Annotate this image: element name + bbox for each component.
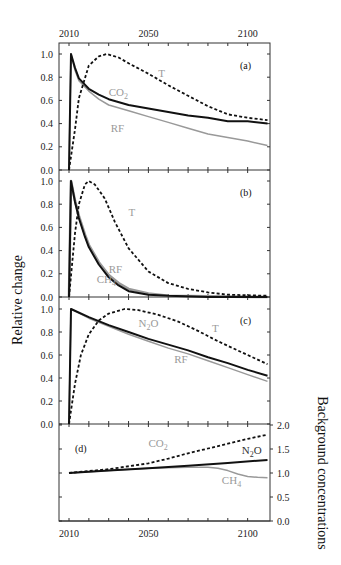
- panel-label-a: (a): [240, 60, 251, 72]
- series-layer: [69, 54, 268, 478]
- series-label-c: T: [212, 322, 219, 334]
- y-tick-label-right: 2.0: [277, 420, 290, 431]
- x-tick-label-bottom: 2100: [238, 528, 258, 539]
- y-tick-label: 0.4: [41, 118, 54, 129]
- x-tick-label-top: 2010: [59, 28, 79, 39]
- series-label-d: N2O: [242, 444, 262, 459]
- series-line-d-n2o: [69, 460, 268, 473]
- series-label-a: CO2: [109, 86, 128, 101]
- panel-label-c: (c): [240, 315, 251, 327]
- y-tick-label: 1.0: [41, 49, 54, 60]
- y-tick-label: 0.0: [41, 292, 54, 303]
- y-tick-label: 0.0: [41, 165, 54, 176]
- y-tick-label: 0.6: [41, 95, 54, 106]
- y-tick-label: 0.8: [41, 199, 54, 210]
- series-label-b: CH4: [97, 273, 116, 288]
- y-tick-label: 0.2: [41, 268, 54, 279]
- series-label-d: CO2: [148, 437, 167, 452]
- y-tick-label-right: 1.5: [277, 444, 290, 455]
- x-tick-label-top: 2100: [238, 28, 258, 39]
- x-tick-label-top: 2050: [138, 28, 158, 39]
- panel-label-b: (b): [240, 187, 252, 199]
- series-line-c-n2o: [69, 309, 268, 424]
- y-tick-label: 0.4: [41, 245, 54, 256]
- series-label-c: RF: [174, 353, 187, 365]
- y-tick-label: 1.0: [41, 176, 54, 187]
- y-tick-label: 0.2: [41, 141, 54, 152]
- panel-d: [69, 435, 268, 478]
- y-tick-label: 0.0: [41, 419, 54, 430]
- figure: Relative change Background concentration…: [0, 0, 341, 565]
- x-tick-label-bottom: 2010: [59, 528, 79, 539]
- series-label-b: T: [129, 206, 136, 218]
- y-tick-label: 0.6: [41, 350, 54, 361]
- y-tick-label: 0.6: [41, 222, 54, 233]
- panel-c: [69, 309, 268, 424]
- series-label-d: CH4: [222, 474, 241, 489]
- y-axis-title-left: Relative change: [10, 255, 25, 345]
- y-tick-label: 1.0: [41, 304, 54, 315]
- y-tick-label: 0.8: [41, 72, 54, 83]
- series-label-a: T: [158, 67, 165, 79]
- y-tick-label: 0.2: [41, 396, 54, 407]
- panel-a: [69, 54, 268, 170]
- series-line-a-co2: [69, 54, 268, 170]
- panel-label-d: (d): [75, 443, 87, 455]
- y-tick-label: 0.8: [41, 327, 54, 338]
- series-line-d-ch4: [69, 467, 268, 478]
- y-tick-label-right: 0.5: [277, 492, 290, 503]
- y-tick-label-right: 1.0: [277, 468, 290, 479]
- series-label-c: N2O: [138, 317, 158, 332]
- x-tick-label-bottom: 2050: [138, 528, 158, 539]
- y-axis-title-right: Background concentrations: [315, 396, 330, 550]
- text-layer: Relative change Background concentration…: [10, 28, 330, 550]
- y-tick-label-right: 0.0: [277, 516, 290, 527]
- series-label-a: RF: [111, 122, 124, 134]
- y-tick-label: 0.4: [41, 373, 54, 384]
